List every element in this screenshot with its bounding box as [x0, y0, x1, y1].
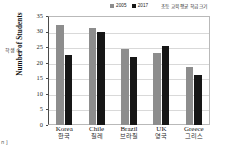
bar-group [80, 16, 112, 125]
bar-greece-2017 [194, 75, 202, 125]
legend-label-2005: 2005 [116, 3, 127, 8]
x-label-greece: Greece그리스 [178, 126, 210, 140]
chart-figure: 2005 2017 초등 교육 평균 학급 크기 학생 수 Number of … [0, 0, 251, 150]
y-tick-label: 20 [37, 59, 43, 66]
bar-brazil-2017 [130, 57, 138, 125]
bar-greece-2005 [186, 67, 194, 125]
bar-uk-2017 [162, 46, 170, 125]
legend-swatch-2017 [132, 4, 136, 8]
bar-korea-2017 [65, 55, 73, 125]
legend-label-2017: 2017 [138, 3, 149, 8]
legend-item-2017: 2017 [132, 3, 149, 8]
y-tick-label: 0 [40, 121, 43, 128]
legend-item-2005: 2005 [110, 3, 127, 8]
bar-uk-2005 [153, 53, 161, 125]
x-label-brazil: Brazil브라질 [113, 126, 145, 140]
x-label-ko: 한국 [48, 133, 80, 140]
y-tick-label: 15 [37, 74, 43, 81]
x-label-ko: 칠레 [80, 133, 112, 140]
bar-korea-2005 [56, 25, 64, 125]
x-label-ko: 브라질 [113, 133, 145, 140]
bar-chile-2005 [89, 28, 97, 125]
bar-groups [48, 16, 210, 125]
bar-group [48, 16, 80, 125]
y-tick-label: 25 [37, 43, 43, 50]
bar-group [145, 16, 177, 125]
y-tick-label: 10 [37, 90, 43, 97]
y-tick-label: 30 [37, 27, 43, 34]
y-axis-label: Number of Students [16, 0, 24, 92]
bar-brazil-2005 [121, 49, 129, 125]
chart-legend: 2005 2017 초등 교육 평균 학급 크기 [110, 0, 251, 11]
chart-note-korean: 초등 교육 평균 학급 크기 [161, 2, 207, 9]
corner-note: п ] [1, 139, 8, 145]
x-label-ko: 영국 [145, 133, 177, 140]
bar-group [113, 16, 145, 125]
x-label-ko: 그리스 [178, 133, 210, 140]
x-axis-labels: Korea한국Chile칠레Brazil브라질UK영국Greece그리스 [48, 126, 210, 140]
bar-group [178, 16, 210, 125]
legend-swatch-2005 [110, 4, 114, 8]
y-tick-label: 5 [40, 105, 43, 112]
y-tick-label: 35 [37, 12, 43, 19]
x-label-korea: Korea한국 [48, 126, 80, 140]
bar-chile-2017 [97, 32, 105, 125]
x-label-chile: Chile칠레 [80, 126, 112, 140]
x-label-uk: UK영국 [145, 126, 177, 140]
